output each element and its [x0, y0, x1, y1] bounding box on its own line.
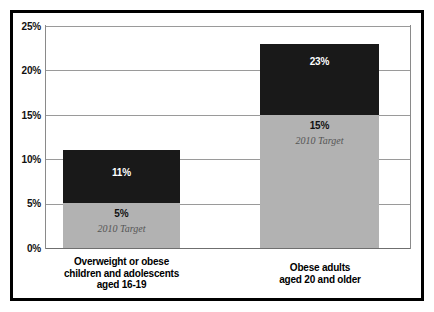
bar-segment-target: 5% 2010 Target — [63, 203, 180, 248]
bar-target-note: 2010 Target — [260, 135, 379, 146]
y-tick-25: 25% — [22, 21, 41, 32]
plot-right-edge — [410, 25, 411, 249]
y-tick-15: 15% — [22, 110, 41, 121]
gridline-25 — [46, 26, 411, 27]
y-tick-0: 0% — [27, 243, 41, 254]
bar-segment-current: 11% — [63, 150, 180, 203]
y-axis: 25% 20% 15% 10% 5% 0% — [0, 0, 41, 312]
bar-value-target: 5% — [63, 208, 180, 219]
axis-baseline — [46, 248, 411, 249]
x-category-label-overweight-children: Overweight or obese children and adolesc… — [36, 256, 207, 291]
bar-obese-adults[interactable]: 23% 15% 2010 Target — [260, 44, 379, 248]
x-category-line: aged 20 and older — [240, 274, 400, 286]
bar-value-total: 11% — [63, 167, 180, 178]
plot-left-edge — [45, 25, 46, 249]
x-category-line: children and adolescents — [36, 268, 207, 280]
bar-segment-current: 23% — [260, 44, 379, 115]
chart-screenshot: 25% 20% 15% 10% 5% 0% 11% 5% 2010 Target… — [0, 0, 434, 312]
x-category-line: aged 16-19 — [36, 279, 207, 291]
x-category-line: Overweight or obese — [36, 256, 207, 268]
bar-value-total: 23% — [260, 56, 379, 67]
y-tick-20: 20% — [22, 65, 41, 76]
x-category-line: Obese adults — [240, 262, 400, 274]
x-category-label-obese-adults: Obese adults aged 20 and older — [240, 262, 400, 285]
bar-value-target: 15% — [260, 120, 379, 131]
bar-segment-target: 15% 2010 Target — [260, 115, 379, 248]
y-tick-5: 5% — [27, 198, 41, 209]
y-tick-10: 10% — [22, 154, 41, 165]
bar-target-note: 2010 Target — [63, 223, 180, 234]
bar-overweight-children[interactable]: 11% 5% 2010 Target — [63, 150, 180, 248]
